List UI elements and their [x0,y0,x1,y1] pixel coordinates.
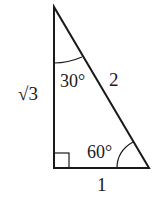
triangle-diagram: √3 2 1 30° 60° [0,0,167,199]
hypotenuse-label: 2 [109,69,119,90]
base-label: 1 [97,174,107,195]
top-angle-label: 30° [60,71,85,91]
bottom-right-angle-arc [117,142,133,168]
vertical-side-label: √3 [18,83,38,104]
bottom-right-angle-label: 60° [87,142,112,162]
right-angle-marker [54,153,69,168]
top-angle-arc [54,57,82,63]
